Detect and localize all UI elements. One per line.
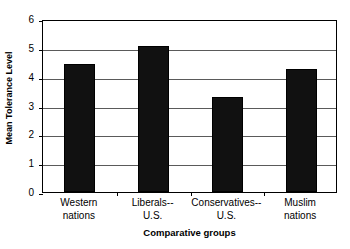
y-axis-tick-label: 5 xyxy=(28,44,34,54)
y-axis-tickmark xyxy=(39,165,43,166)
y-axis-tickmark xyxy=(39,136,43,137)
y-axis-title: Mean Tolerance Level xyxy=(0,0,18,195)
y-axis-tick-labels: 0123456 xyxy=(18,20,38,193)
bar xyxy=(64,64,95,192)
x-axis-tick-label: Western nations xyxy=(42,196,116,222)
x-axis-tick-label: Muslim nations xyxy=(263,196,337,222)
y-axis-tickmark xyxy=(39,108,43,109)
x-axis-tick-label: Conservatives-- U.S. xyxy=(190,196,264,222)
y-axis-tickmark xyxy=(39,50,43,51)
bar xyxy=(286,69,317,192)
x-axis-tick-label: Liberals-- U.S. xyxy=(116,196,190,222)
bars-group xyxy=(43,21,336,192)
y-axis-tick-label: 2 xyxy=(28,130,34,140)
x-axis-tick-labels: Western nationsLiberals-- U.S.Conservati… xyxy=(42,196,337,230)
y-axis-tick-label: 0 xyxy=(28,188,34,198)
bar-chart: Mean Tolerance Level 0123456 Western nat… xyxy=(0,0,350,249)
y-axis-title-label: Mean Tolerance Level xyxy=(4,51,14,144)
y-axis-tick-label: 3 xyxy=(28,102,34,112)
y-axis-tickmark xyxy=(39,21,43,22)
y-axis-tickmark xyxy=(39,79,43,80)
y-axis-tickmark xyxy=(39,194,43,195)
y-axis-tick-label: 4 xyxy=(28,73,34,83)
y-axis-tick-label: 6 xyxy=(28,15,34,25)
bar xyxy=(138,46,169,192)
plot-area xyxy=(42,20,337,193)
bar xyxy=(212,97,243,192)
y-axis-tick-label: 1 xyxy=(28,159,34,169)
x-axis-title: Comparative groups xyxy=(42,227,337,238)
